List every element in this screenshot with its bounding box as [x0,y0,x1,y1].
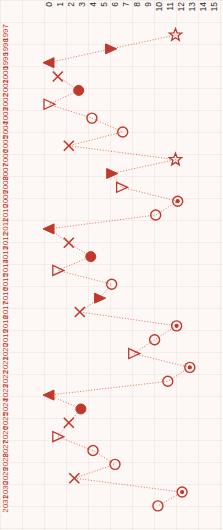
series-line [49,35,190,506]
circle-open-icon [153,501,163,511]
circle-filled-icon [74,85,84,95]
data-point-x [64,238,74,248]
data-point-circle-open [163,376,173,386]
data-point-circle-open [153,501,163,511]
triangle-right-open-icon [53,265,64,275]
data-point-triangle-left-filled [43,224,54,234]
circle-dot-inner-icon [175,324,179,328]
circle-open-icon [110,459,120,469]
data-point-triangle-right-open [53,265,64,275]
data-point-triangle-right-open [117,182,128,192]
data-point-circle-open [87,113,97,123]
triangle-left-filled-icon [43,58,54,68]
circle-open-icon [151,210,161,220]
data-point-circle-dot [185,362,195,372]
circle-open-icon [107,279,117,289]
data-point-circle-dot [173,196,183,206]
data-point-circle-filled [86,252,96,262]
circle-filled-icon [76,404,86,414]
triangle-right-open-icon [44,99,55,109]
circle-open-icon [150,335,160,345]
data-point-triangle-right-open [44,99,55,109]
data-point-star [169,29,181,41]
data-point-circle-open [107,279,117,289]
circle-dot-inner-icon [188,365,192,369]
star-icon [169,29,181,41]
data-point-star [169,153,181,165]
data-series [0,0,223,530]
data-point-triangle-left-filled [43,390,54,400]
data-point-triangle-right-filled [106,44,117,54]
circle-dot-inner-icon [176,199,180,203]
data-point-circle-filled [74,85,84,95]
data-point-triangle-right-filled [107,169,118,179]
circle-filled-icon [86,252,96,262]
circle-open-icon [118,127,128,137]
data-point-triangle-left-filled [43,58,54,68]
data-point-circle-open [110,459,120,469]
circle-open-icon [87,113,97,123]
data-point-circle-open [151,210,161,220]
circle-dot-inner-icon [180,490,184,494]
triangle-right-open-icon [117,182,128,192]
data-point-circle-filled [76,404,86,414]
chart-root: 0123456789101112131415 19971998199920002… [0,0,223,530]
triangle-left-filled-icon [43,390,54,400]
data-point-circle-open [118,127,128,137]
star-icon [169,153,181,165]
data-point-x [53,72,63,82]
circle-open-icon [163,376,173,386]
data-point-x [64,418,74,428]
data-point-x [75,307,85,317]
data-point-triangle-right-filled [95,293,106,303]
data-point-circle-open [150,335,160,345]
triangle-left-filled-icon [43,224,54,234]
plot-area [0,0,223,530]
data-point-circle-dot [177,487,187,497]
triangle-right-filled-icon [95,293,106,303]
triangle-right-filled-icon [107,169,118,179]
triangle-right-filled-icon [106,44,117,54]
data-point-circle-dot [172,321,182,331]
